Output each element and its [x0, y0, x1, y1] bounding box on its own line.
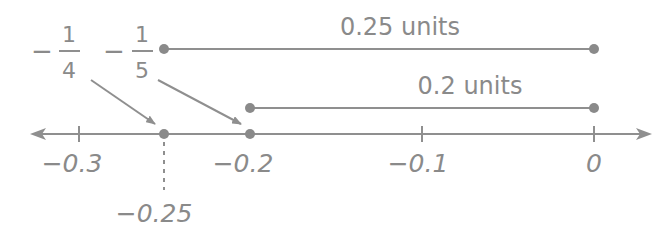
fraction-denominator: 5 — [135, 58, 149, 83]
fraction-numerator: 1 — [62, 22, 76, 47]
point-neg-0-25 — [159, 129, 169, 139]
tick-labels: −0.3 −0.2 −0.1 0 −0.25 — [42, 149, 602, 228]
fraction-numerator: 1 — [135, 22, 149, 47]
distance-segment-0-2: 0.2 units — [245, 72, 599, 113]
tick-label-neg-0-1: −0.1 — [388, 149, 449, 178]
tick-label-0: 0 — [586, 149, 602, 178]
fraction-neg-one-fifth: − 1 5 — [103, 22, 153, 83]
fraction-neg-one-quarter: − 1 4 — [31, 22, 80, 83]
fraction-denominator: 4 — [62, 58, 76, 83]
distance-label-0-2: 0.2 units — [418, 72, 523, 100]
arrow-fifth-to-point-icon — [158, 80, 241, 124]
number-line-diagram: −0.3 −0.2 −0.1 0 −0.25 − 1 4 − 1 5 0.25 … — [0, 0, 669, 237]
point-label-neg-0-25: −0.25 — [116, 199, 193, 228]
number-line-axis — [30, 128, 652, 140]
segment-start-dot — [159, 44, 169, 54]
tick-label-neg-0-3: −0.3 — [42, 149, 103, 178]
distance-label-0-25: 0.25 units — [340, 13, 460, 41]
point-neg-0-2 — [245, 129, 255, 139]
distance-segment-0-25: 0.25 units — [159, 13, 599, 54]
tick-label-neg-0-2: −0.2 — [213, 149, 274, 178]
segment-start-dot — [245, 103, 255, 113]
fraction-sign: − — [31, 36, 53, 66]
fraction-sign: − — [103, 36, 125, 66]
arrow-quarter-to-point-icon — [91, 80, 155, 124]
segment-end-dot — [589, 44, 599, 54]
segment-end-dot — [589, 103, 599, 113]
